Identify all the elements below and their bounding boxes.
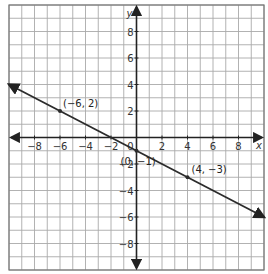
coordinate-plane: xy −8−6−4−22468−8−6−4−224680 (−6, 2)(0, … (0, 0, 268, 274)
x-tick-label: 6 (210, 141, 216, 152)
y-tick-label: 8 (127, 27, 133, 38)
y-tick-label: −8 (119, 239, 134, 250)
x-tick-label: 4 (184, 141, 190, 152)
point-label: (0, −1) (121, 156, 156, 167)
y-tick-label: −6 (119, 212, 134, 223)
y-tick-label: 2 (127, 106, 133, 117)
data-point (58, 109, 62, 113)
point-label: (−6, 2) (63, 98, 98, 109)
x-tick-label: −8 (27, 141, 42, 152)
x-tick-label: −2 (104, 141, 119, 152)
y-tick-label: 4 (127, 80, 133, 91)
data-point (186, 175, 190, 179)
y-tick-label: 6 (127, 53, 133, 64)
x-tick-label: −6 (53, 141, 68, 152)
y-axis-label: y (126, 8, 134, 19)
x-tick-label: 8 (235, 141, 241, 152)
x-tick-label: −4 (78, 141, 93, 152)
y-tick-label: −4 (119, 186, 134, 197)
point-label: (4, −3) (192, 164, 227, 175)
data-point (135, 149, 139, 153)
x-axis-label: x (255, 140, 262, 151)
x-tick-label: 2 (159, 141, 165, 152)
